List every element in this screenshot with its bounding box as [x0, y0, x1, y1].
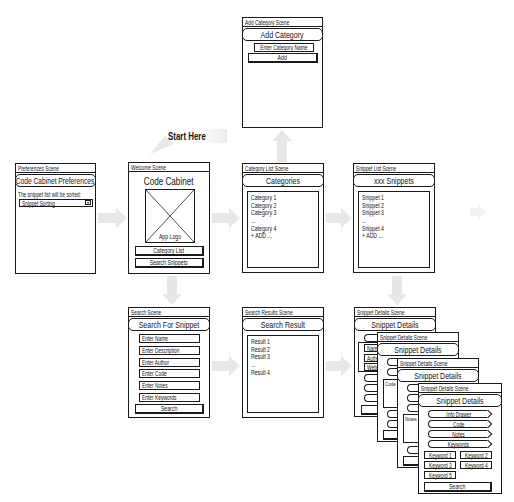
list-item[interactable]: Result 2: [251, 346, 318, 354]
scene-search-results: Search Results Scene Search Result Resul…: [242, 307, 324, 418]
scene-title: Search Result: [242, 318, 324, 331]
tab-notes[interactable]: Notes: [428, 430, 488, 438]
scene-title: xxx Snippets: [353, 174, 435, 187]
arrow-search-to-results: [212, 356, 240, 376]
scene-category-list: Category List Scene Categories Category …: [242, 163, 324, 273]
list-item[interactable]: Category 2: [251, 202, 318, 210]
search-button[interactable]: Search: [424, 482, 492, 492]
scene-header: Snippet List Scene: [354, 164, 434, 173]
storyboard-canvas: Start Here Add Category Scene Add Catego…: [0, 0, 514, 502]
scene-header: Snippet Details Scene: [378, 333, 458, 342]
keyword-chip[interactable]: Keyword 4: [460, 461, 492, 469]
keyword-chip[interactable]: Keyword 3: [424, 461, 456, 469]
arrow-preferences-to-welcome: [98, 208, 127, 228]
scene-header: Welcome Scene: [129, 163, 209, 172]
scene-title: Search For Snippet: [128, 318, 210, 331]
arrow-results-to-details: [326, 356, 352, 376]
scene-preferences: Preferences Scene Code Cabinet Preferenc…: [15, 163, 96, 274]
list-item[interactable]: Snippet 2: [362, 202, 429, 210]
search-snippets-button[interactable]: Search Snippets: [135, 258, 204, 268]
scene-title: Categories: [242, 174, 324, 187]
scene-title: Code Cabinet Preferences: [15, 174, 96, 187]
list-item[interactable]: Category 1: [251, 194, 318, 202]
scene-snippet-details-keywords: Snippet Details Scene Snippet Details In…: [418, 383, 502, 494]
list-ellipsis: ...: [251, 217, 318, 225]
list-item[interactable]: Snippet 3: [362, 209, 429, 217]
list-item[interactable]: Result 3: [251, 353, 318, 361]
list-item[interactable]: Category 3: [251, 209, 318, 217]
name-input[interactable]: Enter Name: [139, 334, 200, 343]
scene-header: Preferences Scene: [16, 164, 95, 173]
arrow-category-list-to-snippet-list: [326, 208, 352, 228]
snippet-list: Snippet 1 Snippet 2 Snippet 3 ... Snippe…: [358, 191, 430, 268]
scene-search: Search Scene Search For Snippet Enter Na…: [128, 307, 210, 418]
start-here-label: Start Here: [168, 129, 227, 143]
logo-label: App Logo: [146, 232, 194, 240]
scene-header: Snippet Details Scene: [355, 308, 435, 317]
arrow-welcome-to-search: [162, 276, 182, 305]
add-category-link[interactable]: + ADD ...: [251, 232, 318, 240]
keyword-chip[interactable]: Keyword 1: [424, 451, 456, 459]
chevron-down-icon[interactable]: ▼: [85, 200, 91, 205]
category-list-button[interactable]: Category List: [135, 246, 204, 256]
description-input[interactable]: Enter Description: [139, 346, 200, 355]
category-list: Category 1 Category 2 Category 3 ... Cat…: [247, 191, 319, 268]
keywords-input[interactable]: Enter Keywords: [139, 393, 200, 402]
search-button[interactable]: Search: [135, 404, 204, 414]
scene-title: Add Category: [242, 28, 323, 41]
list-item[interactable]: Result 4: [251, 368, 318, 376]
scene-header: Category List Scene: [243, 164, 323, 173]
notes-input[interactable]: Enter Notes: [139, 381, 200, 390]
app-title: Code Cabinet: [129, 174, 209, 188]
scene-header: Add Category Scene: [243, 18, 322, 27]
list-item[interactable]: Result 1: [251, 338, 318, 346]
add-button[interactable]: Add: [248, 53, 318, 63]
tab-keywords[interactable]: Keywords: [428, 440, 488, 448]
app-logo-placeholder: App Logo: [145, 189, 195, 243]
scene-title: Snippet Details: [418, 394, 502, 407]
arrow-category-list-to-add-category: [272, 130, 292, 162]
list-item[interactable]: Category 4: [251, 224, 318, 232]
scene-header: Snippet Details Scene: [419, 384, 501, 393]
keyword-chip[interactable]: Keyword 5: [424, 471, 456, 479]
author-input[interactable]: Enter Author: [139, 358, 200, 367]
scene-title: Snippet Details: [397, 369, 479, 382]
tab-info-drawer[interactable]: Info Drawer: [428, 410, 488, 418]
arrow-welcome-to-category-list: [212, 208, 240, 228]
scene-header: Search Scene: [129, 308, 209, 317]
scene-add-category: Add Category Scene Add Category Enter Ca…: [242, 17, 323, 128]
tab-code[interactable]: Code: [428, 420, 488, 428]
category-name-input[interactable]: Enter Category Name: [254, 43, 314, 52]
results-list: Result 1 Result 2 Result 3 ... Result 4: [247, 335, 319, 413]
list-item[interactable]: Snippet 4: [362, 224, 429, 232]
add-snippet-link[interactable]: + ADD ...: [362, 232, 429, 240]
scene-snippet-list: Snippet List Scene xxx Snippets Snippet …: [353, 163, 435, 273]
scene-title: Snippet Details: [354, 318, 436, 331]
snippet-sorting-dropdown[interactable]: Snippet Sorting ▼: [19, 199, 93, 207]
scene-header: Search Results Scene: [243, 308, 323, 317]
sort-description: The snippet list will be sorted:: [18, 190, 103, 198]
scene-header: Snippet Details Scene: [398, 359, 478, 368]
scene-welcome: Welcome Scene Code Cabinet App Logo Cate…: [128, 162, 210, 274]
dropdown-value: Snippet Sorting: [22, 200, 55, 207]
arrow-snippet-list-to-details: [387, 276, 407, 305]
scene-title: Snippet Details: [377, 343, 459, 356]
keyword-chip[interactable]: Keyword 2: [460, 451, 492, 459]
code-input[interactable]: Enter Code: [139, 369, 200, 378]
list-item[interactable]: Snippet 1: [362, 194, 429, 202]
arrow-snippet-list-right: [470, 204, 486, 220]
list-ellipsis: ...: [362, 217, 429, 225]
list-ellipsis: ...: [251, 361, 318, 369]
